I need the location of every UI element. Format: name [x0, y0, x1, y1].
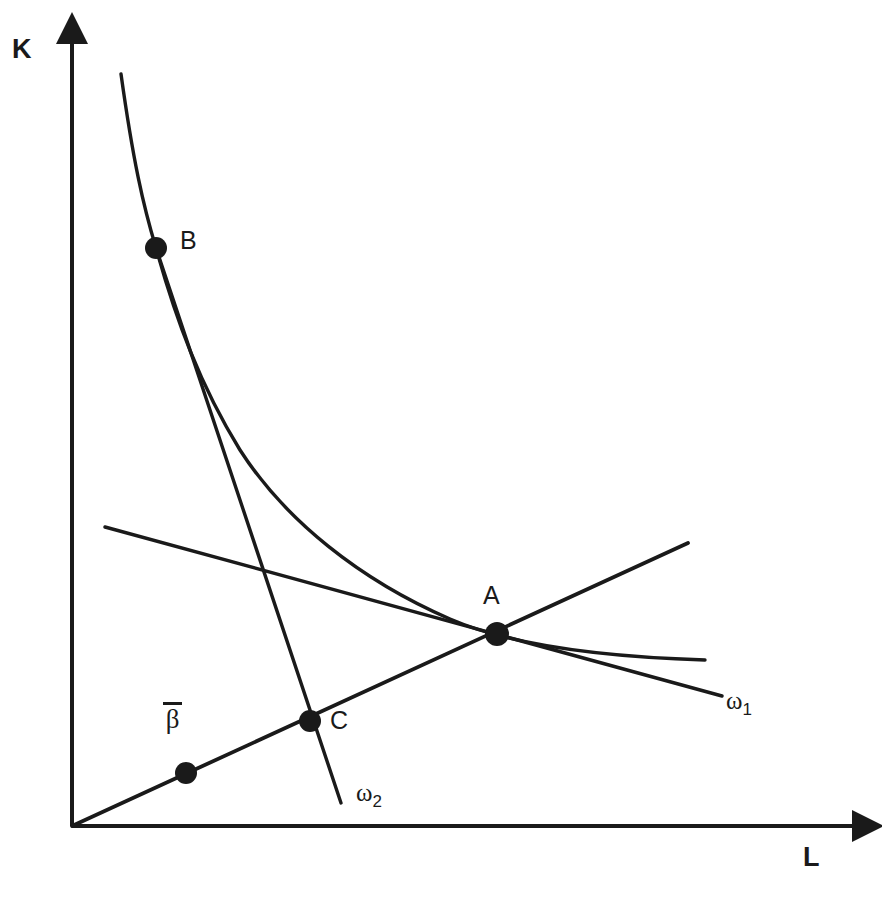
diagram-canvas [0, 0, 882, 902]
point-b-label: B [180, 228, 197, 253]
point-c-label: C [330, 708, 348, 733]
isoquant-curve [121, 74, 705, 660]
point-c-marker [299, 710, 321, 732]
point-beta-bar-marker [175, 762, 197, 784]
labour-axis-label: L [803, 844, 820, 871]
beta-bar-label: β [163, 702, 182, 733]
beta-glyph: β [163, 706, 182, 733]
omega1-base: ω [726, 687, 742, 714]
point-a-label: A [483, 583, 500, 608]
point-b-marker [145, 237, 167, 259]
isocost-omega2-label: ω2 [356, 780, 382, 810]
capital-axis-label: K [12, 36, 32, 63]
omega2-base: ω [356, 779, 372, 806]
omega1-subscript: 1 [742, 700, 751, 719]
isocost-omega1-label: ω1 [726, 688, 752, 718]
isoquant-diagram: K L B A C β ω1 ω2 [0, 0, 882, 902]
point-a-marker [485, 622, 509, 646]
omega2-subscript: 2 [372, 792, 381, 811]
